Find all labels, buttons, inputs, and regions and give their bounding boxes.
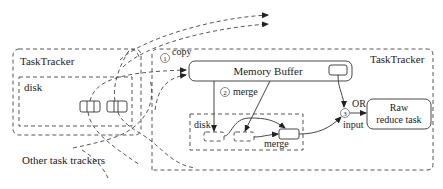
incoming-copy-arrow-1 (90, 70, 186, 101)
step-1-label: copy (172, 46, 191, 57)
left-tasktracker-title: TaskTracker (20, 55, 75, 67)
map-output-file-2 (107, 101, 127, 112)
memory-buffer-segment (329, 65, 347, 75)
left-tasktracker: TaskTracker disk (13, 49, 141, 135)
inner-merge-label: merge (264, 138, 289, 149)
step-3-input: 3 input OR (341, 98, 367, 130)
or-label: OR (352, 98, 366, 109)
incoming-copy-arrow-2 (155, 75, 186, 110)
other-task-trackers-label: Other task trackers (22, 154, 105, 166)
raw-reduce-task-line1: Raw (390, 102, 409, 113)
step-2-label: merge (233, 86, 258, 97)
step-3-label: input (343, 119, 364, 130)
step-2-merge: 2 merge (221, 86, 259, 97)
shuffle-diagram: TaskTracker disk TaskTracker Memory Buff… (0, 0, 443, 189)
buffer-to-input-arrow (338, 75, 344, 107)
spill2-to-merged-arrow (254, 134, 278, 137)
outgoing-copy-arrow-1 (120, 15, 268, 60)
right-tasktracker: TaskTracker Memory Buffer disk merge Raw… (152, 49, 433, 170)
merged-to-input-arrow (299, 117, 341, 134)
svg-text:2: 2 (223, 89, 227, 97)
spill1-to-merged-arrow (224, 118, 285, 136)
step-1-copy: 1 copy (161, 46, 192, 63)
other-trackers-flow-1 (118, 112, 195, 168)
svg-text:1: 1 (163, 55, 167, 63)
spill-file-2 (234, 132, 254, 141)
memory-buffer-label: Memory Buffer (233, 65, 302, 77)
map-output-file-1 (80, 101, 100, 112)
right-tasktracker-title: TaskTracker (370, 53, 425, 65)
other-trackers-flow-4 (73, 80, 152, 148)
spill-file-1 (204, 132, 224, 141)
svg-text:3: 3 (343, 110, 347, 118)
local-disk-label: disk (194, 119, 211, 130)
left-disk-label: disk (24, 81, 43, 93)
raw-reduce-task-line2: reduce task (376, 114, 421, 125)
